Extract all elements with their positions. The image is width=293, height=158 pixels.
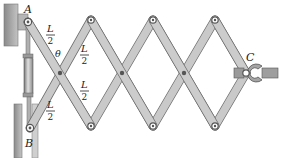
label-half-length-1: L 2 (46, 23, 55, 46)
label-half-length-3: L 2 (80, 79, 89, 102)
label-point-b: B (24, 137, 33, 150)
svg-text:2: 2 (48, 36, 54, 46)
label-angle-theta: θ (55, 48, 61, 59)
label-half-length-4: L 2 (46, 99, 55, 122)
svg-text:2: 2 (82, 56, 88, 66)
label-half-length-2: L 2 (80, 43, 89, 66)
svg-text:L: L (46, 99, 54, 110)
svg-text:L: L (46, 23, 54, 34)
scissor-linkage-diagram: A B C θ L 2 L 2 L 2 L 2 (0, 0, 293, 158)
svg-text:2: 2 (82, 92, 88, 102)
svg-text:2: 2 (48, 112, 54, 122)
svg-text:L: L (80, 43, 88, 54)
label-point-c: C (246, 51, 255, 64)
label-point-a: A (23, 3, 32, 16)
hydraulic-cylinder (23, 24, 33, 125)
svg-text:L: L (80, 79, 88, 90)
